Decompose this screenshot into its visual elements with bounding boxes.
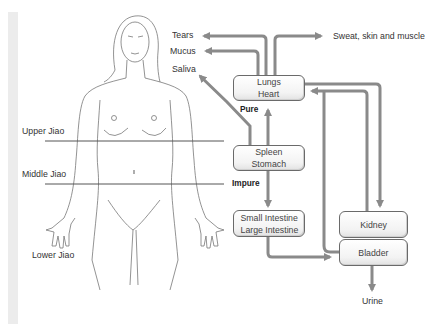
label-lower-jiao: Lower Jiao <box>32 249 74 260</box>
label-saliva: Saliva <box>172 63 196 74</box>
box-intestines: Small Intestine Large Intestine <box>233 210 305 237</box>
arrow-bladder-lungs <box>324 91 340 252</box>
label-pure: Pure <box>240 104 258 114</box>
arrow-kidney-lungs <box>312 91 367 212</box>
box-spleen-label: Spleen <box>255 146 282 158</box>
box-bladder-label: Bladder <box>358 247 388 259</box>
diagram-canvas <box>0 0 437 324</box>
box-lungs-label: Lungs <box>257 76 281 88</box>
label-sweat: Sweat, skin and muscle <box>333 30 425 41</box>
arrow-sweat <box>275 36 321 76</box>
label-impure: Impure <box>232 178 260 188</box>
box-spleen-stomach: Spleen Stomach <box>233 145 305 171</box>
box-lungs-heart: Lungs Heart <box>233 75 305 101</box>
arrow-lungs-kidney <box>304 84 380 206</box>
box-bladder: Bladder <box>339 239 408 266</box>
label-mucus: Mucus <box>170 45 196 56</box>
box-kidney-label: Kidney <box>360 219 387 231</box>
box-large-intestine-label: Large Intestine <box>240 224 298 236</box>
label-middle-jiao: Middle Jiao <box>22 168 66 179</box>
arrow-mucus <box>206 51 258 76</box>
label-upper-jiao: Upper Jiao <box>22 125 64 136</box>
box-stomach-label: Stomach <box>252 158 287 170</box>
box-heart-label: Heart <box>258 88 279 100</box>
label-urine: Urine <box>362 295 383 306</box>
label-tears: Tears <box>172 29 193 40</box>
box-kidney: Kidney <box>339 211 408 238</box>
arrow-intestine-bladder <box>268 236 330 257</box>
box-small-intestine-label: Small Intestine <box>240 212 297 224</box>
